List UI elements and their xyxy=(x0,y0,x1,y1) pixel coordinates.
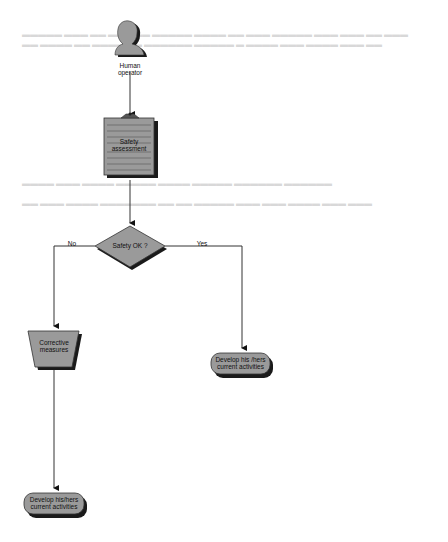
assessment-label-line1: Safety xyxy=(104,138,154,145)
operator-label: Human operator xyxy=(105,62,155,77)
decision-label: Safety OK ? xyxy=(100,242,160,249)
person-icon xyxy=(115,21,147,57)
no-edge-label: No xyxy=(64,240,80,247)
connector-yes-branch xyxy=(165,246,242,348)
flowchart-canvas xyxy=(0,0,448,542)
connector-no-branch xyxy=(54,246,95,326)
develop-no-label: Develop his/hers current activities xyxy=(20,496,88,511)
develop-yes-label-line2: current activities xyxy=(207,363,274,370)
develop-yes-label-line1: Develop his /hers xyxy=(207,356,274,363)
yes-edge-label: Yes xyxy=(193,240,211,247)
corrective-label-line2: measures xyxy=(30,346,78,353)
develop-no-label-line2: current activities xyxy=(20,503,88,510)
corrective-label: Corrective measures xyxy=(30,339,78,354)
corrective-label-line1: Corrective xyxy=(30,339,78,346)
operator-label-line1: Human xyxy=(105,62,155,69)
assessment-label-line2: assessment xyxy=(104,145,154,152)
develop-no-label-line1: Develop his/hers xyxy=(20,496,88,503)
develop-yes-label: Develop his /hers current activities xyxy=(207,356,274,371)
operator-label-line2: operator xyxy=(105,69,155,76)
assessment-label: Safety assessment xyxy=(104,138,154,153)
